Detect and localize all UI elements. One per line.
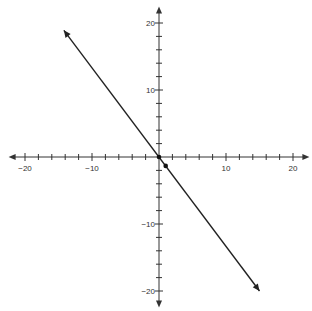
graph-line bbox=[64, 30, 260, 291]
x-tick-label: 10 bbox=[222, 164, 231, 173]
data-point bbox=[157, 155, 162, 160]
plotted-line bbox=[64, 30, 260, 291]
x-tick-label: −20 bbox=[18, 164, 32, 173]
y-tick-label: 10 bbox=[146, 86, 155, 95]
y-tick-label: 20 bbox=[146, 19, 155, 28]
line-end-arrow-icon bbox=[253, 283, 260, 291]
line-start-arrow-icon bbox=[64, 30, 71, 38]
data-point bbox=[163, 164, 168, 169]
y-tick-label: −10 bbox=[141, 220, 155, 229]
x-tick-label: −10 bbox=[85, 164, 99, 173]
x-axis-right-arrow-icon bbox=[302, 154, 309, 160]
y-axis-down-arrow-icon bbox=[156, 300, 162, 307]
x-axis-left-arrow-icon bbox=[9, 154, 16, 160]
x-tick-label: 20 bbox=[289, 164, 298, 173]
y-axis-up-arrow-icon bbox=[156, 7, 162, 14]
y-tick-label: −20 bbox=[141, 287, 155, 296]
coordinate-plane: −20−1010202010−10−20 bbox=[0, 0, 312, 311]
